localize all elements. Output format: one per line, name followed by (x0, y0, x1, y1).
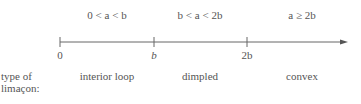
number-line (0, 0, 361, 104)
region-interior-loop: interior loop (80, 70, 135, 82)
tick-label-b: b (151, 49, 157, 61)
row-label-line1: type of (1, 70, 40, 82)
row-label-line2: limaçon: (1, 82, 40, 94)
row-label: type of limaçon: (1, 70, 40, 94)
tick-label-2b: 2b (242, 49, 253, 61)
region-dimpled: dimpled (182, 70, 218, 82)
region-convex: convex (286, 70, 318, 82)
arrowhead-icon (340, 40, 348, 45)
tick-label-zero: 0 (57, 49, 63, 61)
